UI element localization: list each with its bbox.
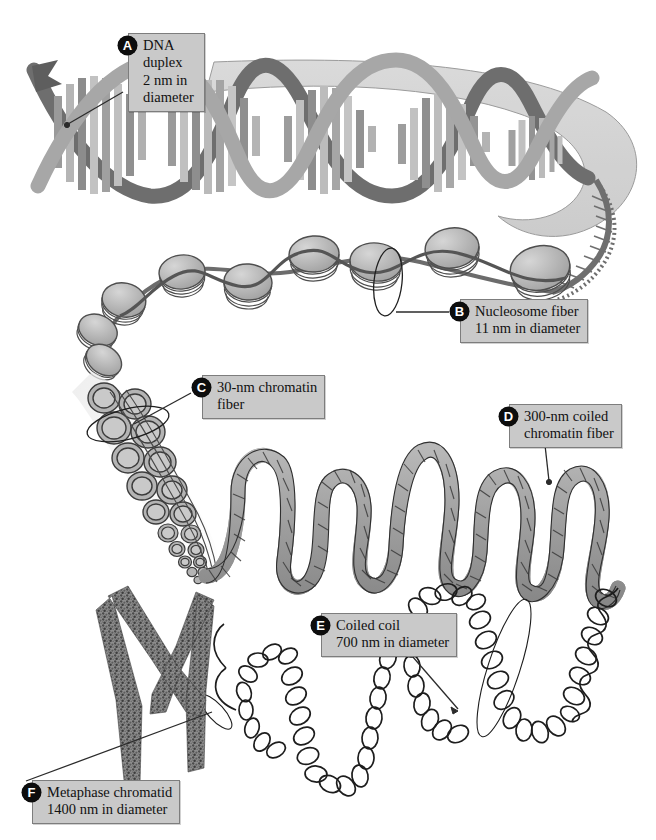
callout-text-b: Nucleosome fiber 11 nm in diameter — [460, 299, 588, 343]
callout-text-a: DNA duplex 2 nm in diameter — [128, 33, 205, 112]
callout-badge-b: B — [450, 302, 469, 321]
callout-badge-d: D — [499, 407, 518, 426]
figure-canvas: A DNA duplex 2 nm in diameter B Nucleoso… — [0, 0, 656, 840]
coiled-fiber-300nm-structure — [206, 442, 620, 608]
callout-text-e: Coiled coil 700 nm in diameter — [321, 613, 457, 657]
spring-segment-highlighted — [464, 591, 569, 745]
callout-badge-a: A — [118, 36, 137, 55]
callout-b[interactable]: B Nucleosome fiber 11 nm in diameter — [450, 299, 588, 343]
callout-a[interactable]: A DNA duplex 2 nm in diameter — [118, 33, 205, 112]
spring-segment-middle-arch — [400, 581, 475, 746]
callout-e[interactable]: E Coiled coil 700 nm in diameter — [311, 613, 457, 657]
callout-text-c: 30-nm chromatin fiber — [202, 375, 325, 419]
metaphase-chromatid-structure — [80, 575, 230, 795]
callout-badge-e: E — [311, 616, 330, 635]
leader-line-d — [545, 445, 552, 485]
callout-text-d: 300-nm coiled chromatin fiber — [509, 404, 622, 448]
callout-text-f: Metaphase chromatid 1400 nm in diameter — [32, 780, 180, 824]
spring-to-chromatid-link — [214, 624, 226, 668]
callout-badge-c: C — [192, 378, 211, 397]
spring-segment-right-upper — [558, 586, 620, 725]
callout-c[interactable]: C 30-nm chromatin fiber — [192, 375, 325, 419]
callout-d[interactable]: D 300-nm coiled chromatin fiber — [499, 404, 622, 448]
callout-f[interactable]: F Metaphase chromatid 1400 nm in diamete… — [22, 780, 180, 824]
callout-badge-f: F — [22, 783, 41, 802]
spring-segment-to-chromatid — [216, 641, 289, 761]
